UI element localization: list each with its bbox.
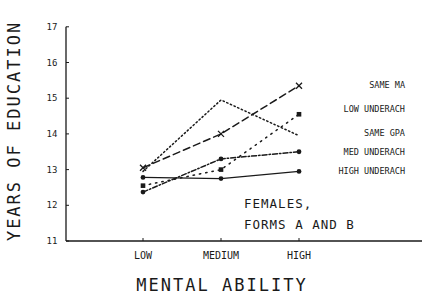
legend: SAME MALOW UNDERACHSAME GPAMED UNDERACHH… [338, 80, 405, 176]
dot-marker-icon [219, 156, 224, 161]
annotation-line-2: FORMS A AND B [244, 217, 355, 232]
series-group [140, 83, 302, 195]
dot-marker-icon [141, 190, 146, 195]
x-tick-label: MEDIUM [203, 250, 239, 261]
x-marker-icon [296, 83, 302, 89]
legend-label: HIGH UNDERACH [338, 166, 405, 176]
axes: 11121314151617LOWMEDIUMHIGH [47, 22, 422, 261]
legend-label: SAME GPA [364, 128, 405, 138]
x-marker-icon [218, 131, 224, 137]
y-tick-label: 15 [47, 93, 58, 103]
y-tick-label: 14 [47, 129, 58, 139]
legend-label: SAME MA [369, 80, 405, 90]
dot-marker-icon [297, 169, 302, 174]
dot-marker-icon [297, 149, 302, 154]
x-marker-icon [140, 165, 146, 171]
x-tick-label: LOW [134, 250, 153, 261]
line-chart: 11121314151617LOWMEDIUMHIGH SAME MALOW U… [0, 0, 422, 308]
dot-marker-icon [219, 176, 224, 181]
y-tick-label: 11 [47, 236, 58, 246]
y-tick-label: 17 [47, 22, 58, 32]
annotation-line-1: FEMALES, [244, 196, 312, 211]
x-axis-title: MENTAL ABILITY [136, 275, 307, 295]
series-line [143, 86, 299, 168]
dot-marker-icon [141, 175, 146, 180]
square-marker-icon [297, 112, 302, 117]
series-med-underach [141, 149, 302, 194]
x-tick-label: HIGH [287, 250, 311, 261]
square-marker-icon [141, 183, 146, 188]
legend-label: MED UNDERACH [344, 147, 405, 157]
y-tick-label: 12 [47, 200, 58, 210]
y-tick-label: 16 [47, 58, 58, 68]
y-axis-title: YEARS OF EDUCATION [4, 21, 24, 241]
y-tick-label: 13 [47, 165, 58, 175]
legend-label: LOW UNDERACH [344, 104, 405, 114]
square-marker-icon [219, 167, 224, 172]
